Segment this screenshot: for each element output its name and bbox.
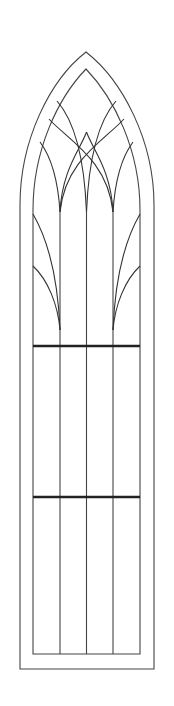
gothic-window-drawing (0, 0, 174, 706)
